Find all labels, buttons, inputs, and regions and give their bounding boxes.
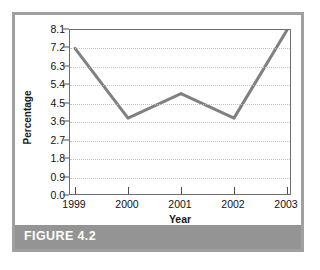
y-axis-tick-mark (63, 176, 69, 177)
x-axis-tick-mark (287, 187, 288, 194)
y-axis-tick-mark (63, 121, 69, 122)
plot-inner (70, 30, 290, 194)
x-axis-tick-label: 2001 (168, 198, 191, 210)
y-axis-title-label: Percentage (23, 90, 34, 144)
y-axis-tick-mark (63, 29, 69, 30)
gridline (70, 48, 290, 49)
y-axis-tick-mark (63, 102, 69, 103)
plot-area (69, 29, 291, 195)
y-axis-tick-mark (63, 195, 69, 196)
gridline (70, 141, 290, 142)
figure-caption-bar: FIGURE 4.2 (15, 225, 301, 249)
y-axis-tick-mark (63, 65, 69, 66)
gridline (70, 159, 290, 160)
figure-frame: Percentage 0.00.91.82.73.64.55.46.37.28.… (12, 12, 304, 252)
y-axis-tick-mark (63, 139, 69, 140)
x-axis-tick-label: 2003 (274, 198, 297, 210)
x-axis-tick-mark (128, 187, 129, 194)
line-chart: Percentage 0.00.91.82.73.64.55.46.37.28.… (15, 15, 301, 225)
x-axis-tick-mark (234, 187, 235, 194)
x-axis-tick-mark (181, 187, 182, 194)
y-axis-title: Percentage (21, 67, 35, 167)
y-axis-tick-mark (63, 84, 69, 85)
figure-caption-label: FIGURE 4.2 (24, 229, 96, 243)
data-series-line (75, 30, 287, 118)
gridline (70, 85, 290, 86)
x-axis-title: Year (69, 213, 291, 225)
y-axis-tick-mark (63, 47, 69, 48)
x-axis-tick-label: 2002 (221, 198, 244, 210)
x-axis-tick-label: 1999 (62, 198, 85, 210)
gridline (70, 104, 290, 105)
y-axis-tick-labels: 0.00.91.82.73.64.55.46.37.28.1 (35, 15, 65, 225)
figure-inner-panel: Percentage 0.00.91.82.73.64.55.46.37.28.… (15, 15, 301, 249)
gridline (70, 122, 290, 123)
data-line-svg (70, 30, 290, 194)
gridline (70, 178, 290, 179)
y-axis-tick-mark (63, 158, 69, 159)
x-axis-tick-label: 2000 (115, 198, 138, 210)
x-axis-tick-labels: 19992000200120022003 (69, 198, 291, 214)
x-axis-tick-mark (75, 187, 76, 194)
gridline (70, 67, 290, 68)
